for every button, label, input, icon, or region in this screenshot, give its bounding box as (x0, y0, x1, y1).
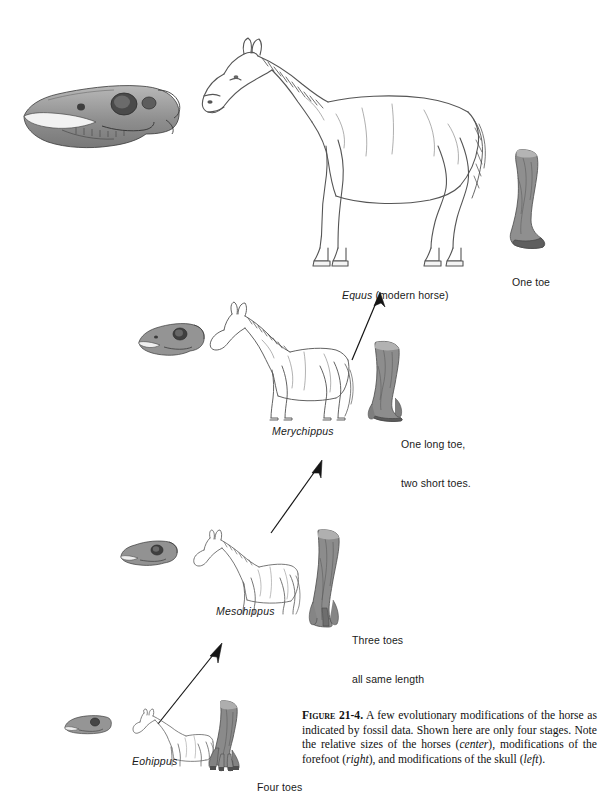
forefoot-three-toe-uneven (367, 340, 411, 422)
forefoot-four-toe (207, 700, 253, 772)
caption-part-3: ), and modifications of the skull ( (369, 753, 524, 766)
foot-label-equus: One toe (512, 250, 550, 315)
caption-em-center: center (459, 738, 488, 751)
forefoot-three-toe-even (308, 528, 350, 628)
foot-label-mesohippus: Three toes all same length (352, 608, 424, 712)
horse-skull-mesohippus (118, 537, 180, 573)
stage-label-eohippus: Eohippus (132, 755, 177, 767)
figure-caption: Figure 21-4. A few evolutionary modifica… (302, 709, 597, 767)
stage-label-mesohippus: Mesohippus (216, 605, 275, 617)
horse-skull-eohippus (62, 712, 114, 740)
foot-label-mesohippus-line1: Three toes (352, 634, 424, 647)
foot-label-merychippus: One long toe, two short toes. (401, 412, 471, 516)
horse-body-merychippus (200, 300, 350, 420)
forefoot-one-toe (505, 148, 551, 253)
caption-part-4: ). (538, 753, 545, 766)
foot-label-equus-line1: One toe (512, 276, 550, 289)
caption-em-left: left (524, 753, 539, 766)
stage-label-merychippus: Merychippus (272, 425, 334, 437)
horse-skull-equus (18, 70, 186, 165)
foot-label-mesohippus-line2: all same length (352, 673, 424, 686)
caption-em-right: right (346, 753, 369, 766)
foot-label-eohippus-line1: Four toes (257, 781, 302, 794)
foot-label-merychippus-line2: two short toes. (401, 477, 471, 490)
arrow-mesohippus-to-merychippus (268, 455, 330, 535)
horse-body-equus (186, 28, 486, 273)
foot-label-merychippus-line1: One long toe, (401, 438, 471, 451)
foot-label-eohippus: Four toes (257, 755, 302, 795)
figure-number: Figure 21-4. (302, 709, 363, 722)
horse-skull-merychippus (136, 318, 206, 364)
horse-body-mesohippus (188, 528, 298, 614)
